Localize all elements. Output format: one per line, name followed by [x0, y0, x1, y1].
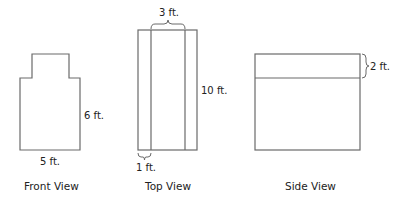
front-view: 6 ft. 5 ft. Front View — [20, 54, 104, 192]
front-view-outline — [20, 54, 80, 150]
top-length-label: 10 ft. — [201, 85, 227, 96]
top-view-outline — [138, 30, 197, 150]
front-view-caption: Front View — [24, 180, 79, 192]
side-view-caption: Side View — [285, 180, 336, 192]
front-width-label: 5 ft. — [40, 156, 60, 167]
top-view-caption: Top View — [144, 180, 191, 192]
orthographic-views-diagram: 6 ft. 5 ft. Front View 3 ft. 10 ft. 1 ft… — [0, 0, 408, 199]
top-view: 3 ft. 10 ft. 1 ft. Top View — [136, 7, 227, 192]
side-top-band-label: 2 ft. — [370, 61, 390, 72]
top-side-strip-brace — [138, 153, 151, 160]
top-inner-width-brace — [151, 20, 185, 29]
side-view: 2 ft. Side View — [255, 54, 390, 192]
front-height-label: 6 ft. — [84, 110, 104, 121]
side-view-outline — [255, 54, 360, 150]
top-inner-width-label: 3 ft. — [159, 7, 179, 18]
top-side-strip-label: 1 ft. — [136, 162, 156, 173]
side-top-band-brace — [362, 54, 369, 78]
